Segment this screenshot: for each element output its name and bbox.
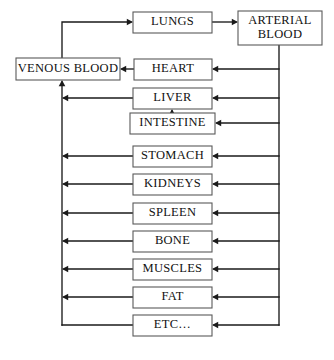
node-label: KIDNEYS (144, 176, 201, 190)
arrow-head-icon (59, 80, 66, 86)
node-stomach[interactable]: STOMACH (133, 146, 212, 167)
node-arterial_blood[interactable]: ARTERIALBLOOD (238, 11, 322, 45)
arrow-head-icon (212, 266, 218, 273)
node-spleen[interactable]: SPLEEN (133, 203, 212, 224)
arrow-head-icon (215, 120, 221, 127)
connector-arterial-to-spleen (212, 210, 279, 217)
connector-venous-to-lungs (62, 19, 133, 58)
flow-diagram-canvas: LUNGSARTERIALBLOODVENOUS BLOODHEARTLIVER… (0, 0, 334, 360)
arrow-head-icon (212, 181, 218, 188)
connector-arterial-to-bone (212, 238, 279, 245)
connector-liver-to-trunk (62, 95, 133, 102)
node-kidneys[interactable]: KIDNEYS (133, 174, 212, 195)
node-muscles[interactable]: MUSCLES (133, 259, 212, 280)
arrow-head-icon (127, 19, 133, 26)
arrow-head-icon (62, 294, 68, 301)
arrow-head-icon (62, 238, 68, 245)
arrow-head-icon (120, 66, 126, 73)
node-label: ETC… (154, 317, 191, 331)
node-label: ARTERIAL (248, 13, 311, 27)
node-label: MUSCLES (143, 261, 203, 275)
connector-arterial-to-fat (212, 294, 279, 301)
connector-left-trunk-up (59, 80, 66, 325)
arrow-head-icon (212, 66, 218, 73)
arrow-head-icon (232, 19, 238, 26)
node-label: FAT (161, 289, 183, 303)
node-label: SPLEEN (149, 205, 197, 219)
connector-arterial-to-kidneys (212, 181, 279, 188)
arrow-head-icon (212, 322, 218, 329)
arrow-head-icon (62, 181, 68, 188)
arrow-head-icon (212, 153, 218, 160)
connector-stomach-to-trunk (62, 153, 133, 160)
arrow-head-icon (212, 95, 218, 102)
arrow-head-icon (62, 95, 68, 102)
connector-bone-to-trunk (62, 238, 133, 245)
arrow-head-icon (62, 153, 68, 160)
connector-lungs-to-arterial (212, 19, 238, 26)
connector-spleen-to-trunk (62, 210, 133, 217)
arrow-head-icon (212, 238, 218, 245)
connector-arterial-to-muscles (212, 266, 279, 273)
node-label: VENOUS BLOOD (18, 61, 118, 75)
node-heart[interactable]: HEART (134, 59, 212, 80)
connector-arterial-to-etc (212, 322, 279, 329)
arrow-head-icon (212, 294, 218, 301)
node-intestine[interactable]: INTESTINE (130, 113, 215, 134)
node-label: STOMACH (141, 148, 204, 162)
connector-arterial-to-heart (212, 66, 279, 73)
connector-arterial-to-intestine (215, 120, 279, 127)
connector-line (62, 22, 131, 58)
node-lungs[interactable]: LUNGS (133, 12, 212, 33)
node-liver[interactable]: LIVER (133, 88, 212, 109)
flow-diagram: LUNGSARTERIALBLOODVENOUS BLOODHEARTLIVER… (0, 0, 334, 360)
arrow-head-icon (212, 210, 218, 217)
node-label: LIVER (153, 90, 192, 104)
node-bone[interactable]: BONE (133, 231, 212, 252)
node-label: HEART (152, 61, 194, 75)
connector-arterial-to-liver (212, 95, 279, 102)
connector-heart-to-venous (120, 66, 134, 73)
connector-kidneys-to-trunk (62, 181, 133, 188)
node-label: BONE (155, 233, 190, 247)
node-etc[interactable]: ETC… (133, 315, 212, 336)
arrow-head-icon (62, 266, 68, 273)
connector-fat-to-trunk (62, 294, 133, 301)
node-label: INTESTINE (139, 115, 206, 129)
node-label: LUNGS (151, 14, 194, 28)
connector-arterial-to-stomach (212, 153, 279, 160)
node-label: BLOOD (258, 27, 303, 41)
connector-muscles-to-trunk (62, 266, 133, 273)
node-venous_blood[interactable]: VENOUS BLOOD (16, 58, 120, 80)
node-fat[interactable]: FAT (133, 287, 212, 308)
arrow-head-icon (62, 210, 68, 217)
